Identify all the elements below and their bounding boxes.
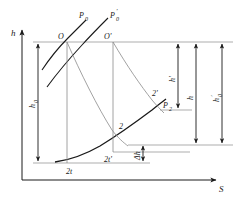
isobar-p2-curve (55, 99, 166, 162)
hs-diagram-svg: h S O O' 2 2' 2t (0, 0, 243, 202)
actual-expansion-Oprime-to-2prime (113, 42, 164, 113)
svg-text:0: 0 (85, 16, 88, 22)
dimension-label-delta-h: Δh (133, 151, 142, 161)
dimension-label-h: h (186, 96, 195, 100)
state-label-two-prime: 2' (152, 89, 158, 98)
svg-text:P: P (162, 101, 168, 110)
dimension-label-h0: h 0 (28, 100, 39, 108)
reference-lines-group (33, 42, 233, 163)
state-label-O-prime: O' (104, 32, 112, 41)
svg-text:P: P (109, 11, 115, 20)
state-label-two: 2 (119, 122, 123, 131)
svg-text:0: 0 (33, 100, 39, 103)
svg-text:0: 0 (116, 16, 119, 22)
x-axis-label: S (219, 184, 224, 194)
svg-text:h: h (28, 104, 37, 108)
figure-canvas: h S O O' 2 2' 2t (0, 0, 243, 202)
svg-text:Δh: Δh (133, 151, 142, 161)
dimension-arrows-group (38, 44, 222, 161)
pressure-label-p0-prime: P 0 ' (109, 7, 119, 22)
svg-text:': ' (209, 95, 217, 97)
dimension-labels-group: h 0 h' h h 0 ' Δh (28, 76, 223, 161)
state-label-two-t: 2t (66, 167, 73, 176)
y-axis-label: h (11, 28, 16, 38)
state-label-O: O (58, 32, 64, 41)
svg-text:P: P (78, 11, 84, 20)
svg-text:h': h' (168, 76, 177, 82)
dimension-label-h-prime: h' (168, 76, 177, 82)
axes-group: h S (11, 28, 224, 194)
svg-text:': ' (116, 7, 118, 15)
svg-text:h: h (186, 96, 195, 100)
dimension-label-h0-prime: h 0 ' (209, 94, 223, 102)
svg-text:h: h (212, 98, 221, 102)
svg-text:0: 0 (217, 94, 223, 97)
state-label-two-t-prime: 2t' (104, 155, 112, 164)
svg-text:2: 2 (169, 106, 172, 112)
pressure-label-p0: P 0 (78, 11, 88, 22)
isobar-p0-curve (42, 20, 86, 70)
pressure-labels-group: P 0 P 0 ' P 2 (78, 7, 172, 112)
